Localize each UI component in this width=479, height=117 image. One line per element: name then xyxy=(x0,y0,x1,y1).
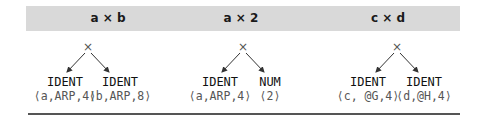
node-type: IDENT xyxy=(80,75,160,89)
tree-node-right: IDENT ⟨d,@H,4⟩ xyxy=(384,75,464,103)
tree-node-right: NUM ⟨2⟩ xyxy=(230,75,310,103)
multiply-operator-node: × xyxy=(78,40,98,54)
node-attr: ⟨d,@H,4⟩ xyxy=(384,89,464,103)
bottom-rule xyxy=(28,113,460,115)
node-type: IDENT xyxy=(384,75,464,89)
node-attr: ⟨b,ARP,8⟩ xyxy=(80,89,160,103)
node-attr: ⟨2⟩ xyxy=(230,89,310,103)
multiply-operator-node: × xyxy=(387,40,407,54)
node-type: NUM xyxy=(230,75,310,89)
multiply-operator-node: × xyxy=(233,40,253,54)
tree-node-right: IDENT ⟨b,ARP,8⟩ xyxy=(80,75,160,103)
